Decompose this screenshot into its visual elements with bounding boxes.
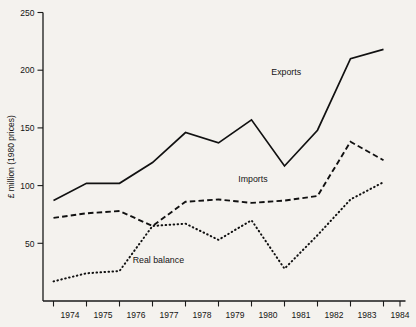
y-tick-label: 200 xyxy=(20,65,34,75)
x-tick-label: 1984 xyxy=(391,310,410,320)
y-tick-label: 250 xyxy=(20,8,34,18)
series-line-exports xyxy=(54,49,384,200)
y-tick-label: 100 xyxy=(20,181,34,191)
x-tick-label: 1977 xyxy=(160,310,179,320)
series-label-real-balance: Real balance xyxy=(133,255,184,265)
series-line-real-balance xyxy=(54,182,384,281)
x-tick-label: 1980 xyxy=(259,310,278,320)
x-tick-label: 1974 xyxy=(61,310,80,320)
y-tick-label: 150 xyxy=(20,123,34,133)
x-tick-label: 1983 xyxy=(358,310,377,320)
x-tick-label: 1975 xyxy=(94,310,113,320)
x-tick-label: 1981 xyxy=(292,310,311,320)
line-chart: 5010015020025019741975197619771978197919… xyxy=(0,0,416,327)
x-tick-label: 1982 xyxy=(325,310,344,320)
series-label-exports: Exports xyxy=(271,67,301,77)
chart-axes: 5010015020025019741975197619771978197919… xyxy=(6,8,410,320)
x-tick-label: 1979 xyxy=(226,310,245,320)
x-tick-label: 1978 xyxy=(193,310,212,320)
y-axis-title: £ million (1980 prices) xyxy=(6,115,16,198)
chart-series xyxy=(54,49,384,281)
series-label-imports: Imports xyxy=(238,174,268,184)
x-tick-label: 1976 xyxy=(127,310,146,320)
y-tick-label: 50 xyxy=(25,239,35,249)
chart-annotations: ExportsImportsReal balance xyxy=(133,67,302,265)
chart-figure: 5010015020025019741975197619771978197919… xyxy=(0,0,416,327)
